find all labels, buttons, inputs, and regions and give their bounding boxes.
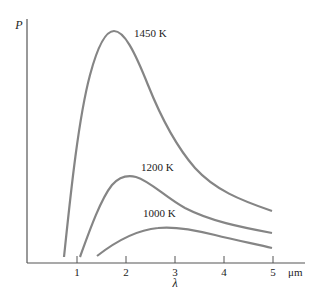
curve-1000k <box>97 227 272 256</box>
series-label-1450k: 1450 K <box>134 27 167 39</box>
x-tick-label: 1 <box>74 266 80 278</box>
series-label-1200k: 1200 K <box>141 161 174 173</box>
curve-1200k <box>80 176 272 257</box>
chart: 1 2 3 4 5 μm λ P 1450 K 1200 K 1000 K <box>0 0 320 297</box>
y-axis-title: P <box>14 18 23 32</box>
x-ticks <box>77 256 273 263</box>
x-tick-label: 5 <box>270 266 276 278</box>
x-tick-label: 4 <box>221 266 227 278</box>
curve-1450k <box>64 31 272 257</box>
x-unit-label: μm <box>288 266 303 278</box>
series-label-1000k: 1000 K <box>143 207 176 219</box>
x-tick-label: 2 <box>123 266 129 278</box>
x-axis-title: λ <box>171 276 177 290</box>
